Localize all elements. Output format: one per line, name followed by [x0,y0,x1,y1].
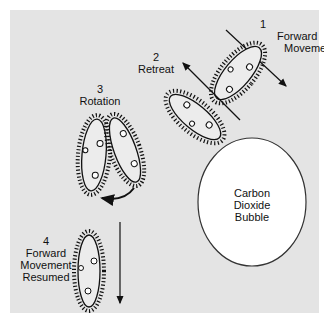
rotation-arrow [102,188,134,199]
stage-2-number: 2 [136,51,176,63]
stage-4-number: 4 [20,235,72,247]
stage-4-label: 4 Forward Movement Resumed [20,235,72,283]
stage-3-label: 3 Rotation [75,83,125,107]
stage-1-label: 1 Forward Movement [240,18,320,54]
bubble-label: Carbon Dioxide Bubble [222,187,282,223]
stage-3-number: 3 [75,83,125,95]
stage-1-number: 1 [240,18,320,30]
paramecium-stage-4 [74,231,104,311]
stage-2-label: 2 Retreat [136,51,176,75]
